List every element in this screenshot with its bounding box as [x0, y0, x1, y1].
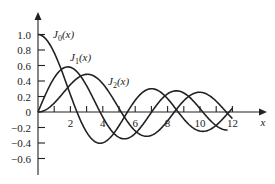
y-tick-label: −0.6 — [11, 153, 31, 165]
x-tick-label: 4 — [100, 117, 106, 129]
y-tick-label: 0.4 — [17, 75, 31, 87]
x-tick-label: 12 — [227, 117, 238, 129]
series-label-j1: J1(x) — [70, 51, 91, 66]
series-label-j0: J0(x) — [53, 28, 74, 43]
y-tick-label: 0 — [26, 106, 32, 118]
x-axis-label: x — [260, 116, 266, 128]
series-label-j2: J2(x) — [108, 75, 129, 90]
y-tick-label: 1.0 — [17, 29, 31, 41]
y-tick-label: 0.8 — [17, 44, 31, 56]
y-tick-label: −0.4 — [11, 137, 31, 149]
bessel-functions-chart: 1.00.80.60.40.20−0.2−0.4−0.624681012xJ0(… — [0, 0, 275, 184]
y-tick-label: −0.2 — [11, 122, 31, 134]
x-tick-label: 10 — [195, 117, 207, 129]
x-axis-arrow-icon — [259, 109, 267, 116]
y-tick-label: 0.6 — [17, 60, 31, 72]
x-tick-label: 8 — [165, 117, 171, 129]
y-tick-label: 0.2 — [17, 91, 31, 103]
x-tick-label: 6 — [132, 117, 138, 129]
y-axis-arrow-icon — [35, 12, 42, 20]
x-tick-label: 2 — [68, 117, 74, 129]
